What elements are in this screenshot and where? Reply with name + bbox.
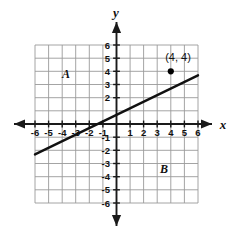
y-tick-label--6: -6 — [102, 198, 110, 209]
graph-canvas: -6 -5 -4 -3 -2 -1 1 2 3 4 5 6 6 5 4 3 2 … — [0, 0, 247, 232]
x-axis-label: x — [219, 117, 227, 132]
y-tick-label--3: -3 — [102, 158, 110, 169]
y-tick-label-6: 6 — [105, 40, 110, 51]
y-tick-label--5: -5 — [102, 184, 111, 195]
y-tick-label--2: -2 — [102, 145, 110, 156]
x-tick-label-2: 2 — [141, 127, 146, 138]
y-tick-label-2: 2 — [105, 92, 110, 103]
region-label-a: A — [61, 67, 70, 81]
y-axis-label: y — [111, 5, 119, 20]
x-tick-label--6: -6 — [31, 127, 39, 138]
x-tick-label-3: 3 — [155, 127, 160, 138]
plotted-point-marker[interactable] — [168, 68, 174, 74]
y-tick-label-5: 5 — [105, 53, 111, 64]
x-tick-label-5: 5 — [182, 127, 188, 138]
figure-background — [0, 0, 247, 232]
x-tick-label-4: 4 — [168, 127, 174, 138]
y-tick-label-4: 4 — [105, 66, 111, 77]
x-tick-label--5: -5 — [44, 127, 53, 138]
region-label-b: B — [159, 162, 168, 176]
x-tick-label-1: 1 — [127, 127, 133, 138]
coordinate-graph-figure: -6 -5 -4 -3 -2 -1 1 2 3 4 5 6 6 5 4 3 2 … — [0, 0, 247, 232]
y-tick-label--4: -4 — [102, 171, 111, 182]
x-tick-label-6: 6 — [195, 127, 200, 138]
y-tick-label-3: 3 — [105, 79, 110, 90]
plotted-point-label: (4, 4) — [165, 51, 191, 63]
y-tick-label--1: -1 — [102, 132, 111, 143]
x-tick-label--4: -4 — [58, 127, 67, 138]
